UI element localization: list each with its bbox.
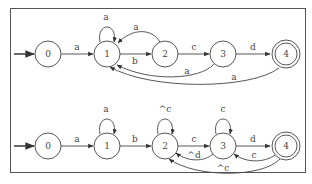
edge-label: c [251, 150, 256, 160]
state-label: 0 [45, 49, 51, 59]
edge-label: d [250, 134, 256, 144]
edge-label: ^c [159, 104, 172, 114]
automata-figure: a a b a c a d a 0 1 2 [0, 0, 312, 184]
state-0: 0 [35, 41, 61, 67]
state-label: 4 [283, 141, 289, 151]
dfa-bottom: a a b ^c c c ^d d c ^c 0 [14, 104, 300, 173]
state-1: 1 [94, 41, 120, 67]
edge-label: a [103, 104, 109, 114]
state-label: 2 [162, 49, 168, 59]
state-label: 1 [104, 141, 110, 151]
edge-label: a [103, 12, 109, 22]
edge-label: ^c [217, 163, 230, 173]
edge-label: c [191, 134, 196, 144]
state-label: 4 [283, 49, 289, 59]
state-3: 3 [210, 41, 236, 67]
edge-label: d [250, 42, 256, 52]
edge-label: a [133, 22, 139, 32]
edge-label: b [132, 134, 138, 144]
edge-1-1 [100, 27, 115, 42]
state-0: 0 [35, 133, 61, 159]
state-4-accepting: 4 [272, 132, 300, 160]
edge-1-1 [100, 119, 115, 134]
edge-2-1 [118, 32, 160, 43]
edge-label: a [231, 72, 237, 82]
state-label: 1 [104, 49, 110, 59]
edge-label: a [74, 134, 80, 144]
state-1: 1 [94, 133, 120, 159]
state-label: 3 [220, 141, 226, 151]
edge-label: a [184, 66, 190, 76]
state-2: 2 [152, 41, 178, 67]
edge-label: ^d [187, 150, 201, 160]
edge-label: a [74, 42, 80, 52]
edge-2-2 [158, 119, 173, 134]
edge-label: c [191, 42, 196, 52]
state-3: 3 [210, 133, 236, 159]
state-4-accepting: 4 [272, 40, 300, 68]
edge-4-1 [110, 67, 279, 84]
state-label: 0 [45, 141, 51, 151]
edge-3-3 [216, 119, 231, 134]
dfa-top: a a b a c a d a 0 1 2 [14, 12, 300, 84]
state-label: 2 [162, 141, 168, 151]
state-label: 3 [220, 49, 226, 59]
state-2: 2 [152, 133, 178, 159]
edge-label: c [220, 104, 225, 114]
edge-label: b [132, 56, 138, 66]
